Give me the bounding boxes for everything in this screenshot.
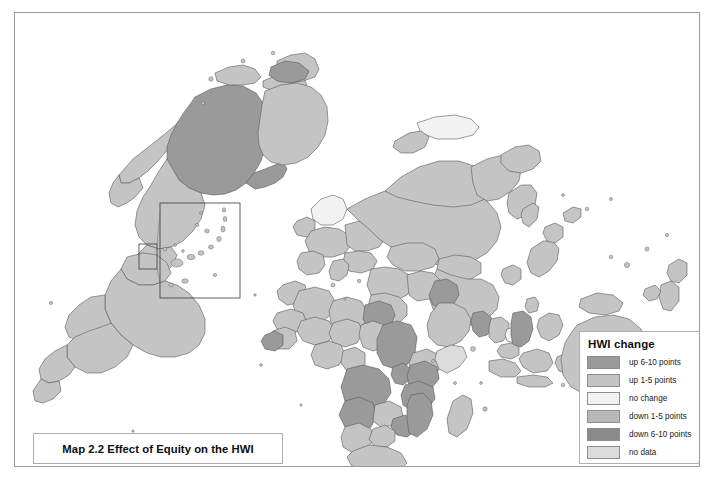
legend-item-down-1-5[interactable]: down 1-5 points [587,408,694,425]
legend-swatch-down-1-5 [587,410,620,423]
region-caribbean-speck-2 [174,244,177,247]
legend-item-no-data[interactable]: no data [587,444,694,461]
map-title-box: Map 2.2 Effect of Equity on the HWI [33,433,283,464]
region-arctic-islet-1 [209,77,213,81]
legend-item-up-6-10[interactable]: up 6-10 points [587,354,694,371]
legend-swatch-down-6-10 [587,428,620,441]
region-marshall-islands [610,198,613,201]
legend-label-up-6-10: up 6-10 points [629,358,681,368]
region-taiwan[interactable] [525,297,539,313]
legend-label-up-1-5: up 1-5 points [629,376,676,386]
map-figure: .land { stroke:#5a5a5a; stroke-width:0.6… [0,0,713,479]
map-frame: .land { stroke:#5a5a5a; stroke-width:0.6… [14,12,700,467]
region-arctic-islet-2 [241,59,245,63]
legend-label-no-data: no data [629,448,656,458]
map-legend: HWI change up 6-10 points up 1-5 points … [579,331,700,464]
region-guam [562,194,565,197]
region-arctic-islet-3 [271,51,275,55]
legend-swatch-up-1-5 [587,374,620,387]
legend-label-down-6-10: down 6-10 points [629,430,691,440]
region-caribbean-speck-3 [182,250,185,253]
region-solomon-islands [624,262,629,267]
legend-item-up-1-5[interactable]: up 1-5 points [587,372,694,389]
region-caribbean-speck-1 [163,247,167,251]
legend-swatch-up-6-10 [587,356,620,369]
region-sicily [331,283,335,287]
region-cape-verde [260,364,263,367]
legend-label-down-1-5: down 1-5 points [629,412,687,422]
region-vanuatu [645,247,649,251]
region-sri-lanka [471,347,476,352]
legend-label-no-change: no change [629,394,667,404]
legend-swatch-no-data [587,446,620,459]
legend-item-down-6-10[interactable]: down 6-10 points [587,426,694,443]
region-pacific-islet-1 [609,255,613,259]
legend-item-no-change[interactable]: no change [587,390,694,407]
region-galapagos [49,301,52,304]
region-timor [561,383,565,387]
legend-swatch-no-change [587,392,620,405]
region-djibouti-speck [431,359,434,362]
region-mauritius [483,407,487,411]
legend-title: HWI change [588,338,694,350]
region-crete [357,279,361,283]
region-fiji [665,233,668,236]
region-comoros [454,382,457,385]
region-indian-islet [480,382,483,385]
region-arctic-islet-4 [201,101,204,104]
page-title: Map 2.2 Effect of Equity on the HWI [62,443,253,455]
region-micronesia [585,207,589,211]
